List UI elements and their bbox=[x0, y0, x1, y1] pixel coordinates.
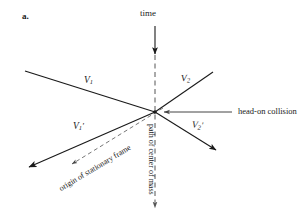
vector-label-v1-subscript: 1 bbox=[90, 78, 93, 85]
vector-label-v2-subscript: 2 bbox=[187, 76, 190, 83]
vector-label-v2: V2 bbox=[181, 74, 190, 84]
vector-label-v1: V1 bbox=[84, 76, 93, 86]
time-axis-label: time bbox=[140, 9, 156, 18]
vector-label-v2-prime: V2' bbox=[192, 121, 204, 132]
figure-panel: a. time bbox=[0, 0, 298, 222]
vector-v2-prime-line bbox=[155, 112, 216, 150]
vector-v1-prime-line bbox=[29, 112, 155, 167]
vector-label-v1-prime: V1' bbox=[73, 122, 84, 132]
center-of-mass-path-label: path of center of mass bbox=[147, 124, 155, 195]
vector-label-v1p-prime: ' bbox=[82, 121, 84, 131]
collision-point-marker bbox=[153, 110, 157, 114]
head-on-collision-label: head-on collision bbox=[238, 107, 297, 116]
